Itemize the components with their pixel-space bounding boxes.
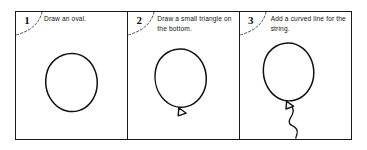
tutorial-panel-3: 3 Add a curved line for the string. [239, 12, 351, 139]
step-illustration-balloon-with-string [240, 34, 351, 139]
step-number-label: 1 [19, 13, 35, 27]
step-instruction-text: Draw an oval. [44, 14, 124, 24]
step-illustration-oval-with-triangle [128, 34, 238, 139]
tutorial-panel-1: 1 Draw an oval. [16, 12, 127, 139]
step-instruction-text: Draw a small triangle on the bottom. [157, 14, 236, 33]
tutorial-panel-2: 2 Draw a small triangle on the bottom. [127, 12, 238, 139]
step-illustration-oval [16, 34, 127, 139]
step-instruction-text: Add a curved line for the string. [271, 14, 347, 33]
drawing-tutorial-frame: 1 Draw an oval. 2 Draw a small triangle … [15, 11, 352, 140]
step-number-label: 3 [243, 13, 259, 27]
step-number-label: 2 [131, 13, 147, 27]
